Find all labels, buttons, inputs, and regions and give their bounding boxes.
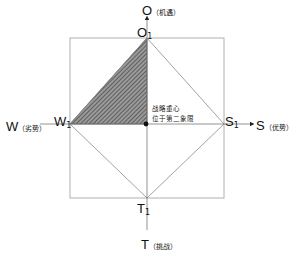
annotation-line-2: 位于第二象限 [152, 114, 194, 124]
annotation-line-1: 战略重心 [152, 104, 194, 114]
strategy-annotation: 战略重心 位于第二象限 [152, 104, 194, 124]
vertex-label-s1: S1 [225, 113, 239, 130]
axis-label-bottom: T（挑战） [141, 236, 177, 252]
axis-label-right: S（优势） [256, 117, 293, 133]
axis-label-top: O（机遇） [142, 2, 180, 18]
vertex-label-w1: W1 [54, 113, 71, 130]
vertex-label-t1: T1 [137, 200, 150, 217]
vertex-label-o1: O1 [137, 24, 152, 41]
axis-label-left: W（劣势） [6, 118, 46, 134]
strategy-center-dot [144, 122, 149, 127]
